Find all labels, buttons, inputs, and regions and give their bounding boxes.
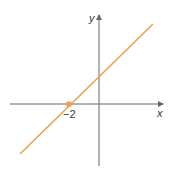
y-axis-label: y xyxy=(88,12,96,24)
tick-label: −2 xyxy=(63,108,76,120)
x-intercept-marker xyxy=(67,102,72,107)
chart: −2 x y xyxy=(0,0,171,171)
x-axis-label: x xyxy=(156,107,163,119)
data-line xyxy=(20,24,153,154)
